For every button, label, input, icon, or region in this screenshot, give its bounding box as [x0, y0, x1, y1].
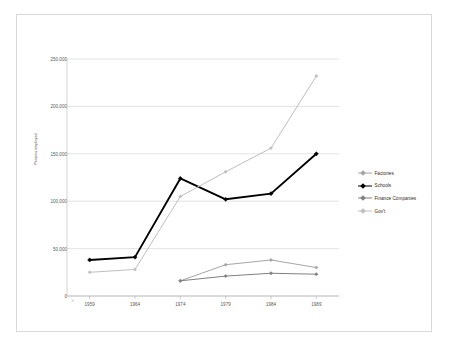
- series-line: [90, 154, 317, 260]
- chart-legend: FactoriesSchoolsFinance CompaniesGov't: [358, 167, 449, 217]
- x-axis-tick: 1984: [266, 302, 276, 307]
- legend-swatch-icon: [358, 170, 372, 177]
- legend-item-finance-companies[interactable]: Finance Companies: [358, 192, 449, 205]
- legend-swatch-icon: [358, 182, 372, 189]
- data-point: [88, 271, 91, 274]
- series-finance-companies: [179, 272, 318, 283]
- legend-item-label: Schools: [375, 183, 392, 188]
- legend-item-label: Factories: [375, 171, 394, 176]
- series-gov-t: [88, 74, 318, 274]
- data-point: [269, 258, 272, 261]
- x-axis-tick: 1959: [85, 302, 95, 307]
- legend-item-schools[interactable]: Schools: [358, 180, 449, 193]
- data-point: [315, 273, 318, 276]
- legend-swatch-icon: [358, 195, 372, 202]
- chart-container: Persons employed 050,000100,000150,00020…: [16, 14, 432, 332]
- legend-swatch-icon: [358, 208, 372, 215]
- x-axis-tick-labels: 195919641974197919841989: [17, 302, 431, 316]
- series-schools: [88, 152, 319, 262]
- data-point: [269, 272, 272, 275]
- series-line: [180, 273, 316, 281]
- data-point: [224, 274, 227, 277]
- legend-item-factories[interactable]: Factories: [358, 167, 449, 180]
- data-point: [88, 258, 92, 262]
- x-axis-tick: 1974: [175, 302, 185, 307]
- data-point: [224, 263, 227, 266]
- x-axis-tick: 1964: [130, 302, 140, 307]
- legend-item-gov-t[interactable]: Gov't: [358, 205, 449, 218]
- legend-item-label: Finance Companies: [375, 196, 417, 201]
- x-axis-tick: 1979: [221, 302, 231, 307]
- data-point: [179, 279, 182, 282]
- series-line: [180, 260, 316, 281]
- x-axis-tick: 1989: [311, 302, 321, 307]
- data-point: [315, 266, 318, 269]
- legend-item-label: Gov't: [375, 209, 386, 214]
- series-line: [90, 76, 317, 272]
